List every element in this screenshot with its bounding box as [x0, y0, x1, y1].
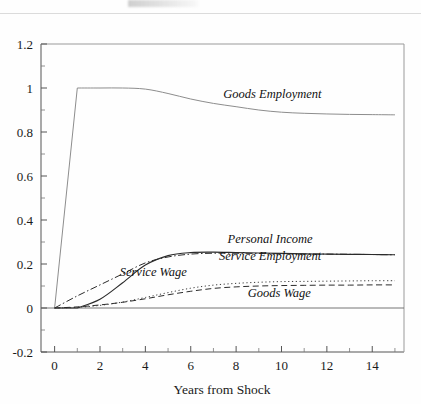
- series-labels-group: Goods EmploymentPersonal IncomeService E…: [120, 87, 322, 300]
- series-label-goods-wage: Goods Wage: [248, 286, 312, 300]
- x-tick-label: 14: [366, 358, 380, 373]
- x-tick-label: 6: [187, 358, 194, 373]
- series-label-service-wage: Service Wage: [120, 265, 188, 279]
- x-tick-label: 10: [275, 358, 288, 373]
- x-tick-label: 4: [142, 358, 149, 373]
- y-tick-label: 0.8: [17, 125, 33, 140]
- series-line-goods-employment: [55, 88, 395, 308]
- y-tick-label: 0: [27, 301, 34, 316]
- series-label-personal-income: Personal Income: [227, 232, 313, 246]
- series-label-goods-employment: Goods Employment: [223, 87, 322, 101]
- x-tick-label: 8: [233, 358, 240, 373]
- y-tick-label: 0.2: [17, 257, 33, 272]
- chart-figure: -0.200.20.40.60.811.202468101214 Goods E…: [0, 0, 421, 404]
- y-tick-label: -0.2: [12, 345, 33, 360]
- x-tick-label: 2: [97, 358, 104, 373]
- impulse-response-chart: -0.200.20.40.60.811.202468101214 Goods E…: [0, 0, 421, 404]
- y-tick-label: 1.2: [17, 37, 33, 52]
- x-axis-title: Years from Shock: [174, 382, 271, 397]
- y-tick-label: 0.6: [17, 169, 34, 184]
- curves-group: [55, 88, 395, 308]
- y-tick-label: 1: [27, 81, 34, 96]
- x-tick-label: 12: [320, 358, 333, 373]
- tick-labels-group: -0.200.20.40.60.811.202468101214: [12, 37, 379, 374]
- x-tick-label: 0: [51, 358, 58, 373]
- series-line-goods-wage: [55, 285, 395, 308]
- y-tick-label: 0.4: [17, 213, 34, 228]
- series-label-service-employment: Service Employment: [219, 249, 322, 263]
